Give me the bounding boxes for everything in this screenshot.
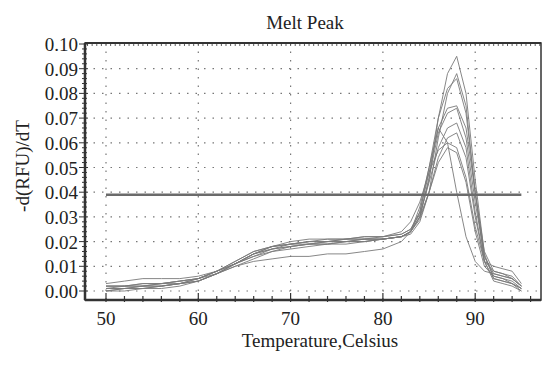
y-tick-label: 0.06 <box>45 133 78 154</box>
x-tick-label: 50 <box>97 308 116 329</box>
x-tick-label: 60 <box>189 308 208 329</box>
melt-curve <box>106 148 521 289</box>
melt-curve <box>106 56 521 288</box>
x-tick-label: 80 <box>373 308 392 329</box>
melt-curve <box>106 108 521 288</box>
y-tick-label: 0.08 <box>45 83 78 104</box>
y-tick-label: 0.00 <box>45 281 78 302</box>
y-tick-label: 0.01 <box>45 256 78 277</box>
y-tick-label: 0.07 <box>45 108 78 129</box>
y-tick-label: 0.09 <box>45 59 78 80</box>
x-tick-label: 70 <box>281 308 300 329</box>
melt-curve <box>106 74 521 291</box>
y-tick-label: 0.02 <box>45 232 78 253</box>
melt-curve <box>106 128 521 286</box>
y-tick-label: 0.03 <box>45 207 78 228</box>
series-lines <box>106 56 521 291</box>
x-tick-label: 90 <box>466 308 485 329</box>
melt-curve <box>106 106 521 286</box>
y-tick-label: 0.04 <box>45 182 79 203</box>
melt-curve <box>106 143 521 284</box>
y-tick-label: 0.05 <box>45 158 78 179</box>
y-tick-label: 0.10 <box>45 34 78 55</box>
melt-peak-chart: 0.000.010.020.030.040.050.060.070.080.09… <box>0 0 558 372</box>
